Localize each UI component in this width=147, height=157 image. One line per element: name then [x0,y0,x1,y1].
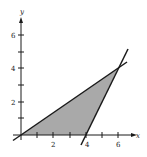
x-axis-label: x [136,132,140,140]
x-tick-label-6: 6 [116,141,121,149]
y-axis-arrow-icon [19,17,23,23]
y-tick-label-6: 6 [11,32,16,40]
y-tick-label-2: 2 [11,99,15,107]
y-tick-label-4: 4 [11,65,16,73]
graph-figure: 2 4 6 2 4 6 x y [0,0,147,157]
x-tick-label-4: 4 [85,141,90,149]
region-graph: 2 4 6 2 4 6 x y [0,0,147,157]
x-tick-label-2: 2 [51,141,55,149]
y-axis-label: y [19,8,25,16]
